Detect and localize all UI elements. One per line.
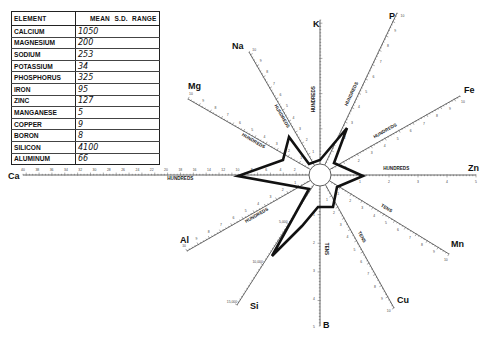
axis-label-al: Al — [180, 235, 189, 245]
element-name: BORON — [12, 130, 76, 142]
tick-label: 3 — [417, 180, 419, 184]
tick-label: 4 — [358, 105, 360, 109]
tick-label: 8 — [208, 230, 210, 234]
tick-label: 7 — [367, 272, 369, 276]
axis-label-cu: Cu — [397, 295, 409, 305]
tick-label: 6 — [232, 216, 234, 220]
unit-label: HUNDREDS — [373, 122, 398, 139]
tick-label: 6 — [265, 168, 267, 172]
tick-label: 7 — [409, 236, 411, 240]
tick-label: 4 — [347, 235, 349, 239]
element-table: ELEMENT MEAN S.D. RANGE CALCIUM1050MAGNE… — [11, 11, 160, 165]
tick-label: 38 — [35, 168, 39, 172]
unit-label: TENS — [324, 243, 329, 255]
mean-value: 34 — [76, 60, 113, 72]
tick-label: 9 — [381, 297, 383, 301]
table-row: SODIUM253 — [12, 49, 160, 61]
range-value — [130, 83, 159, 95]
sd-value — [112, 83, 130, 95]
tick-label: 10,000 — [252, 260, 262, 264]
table-row: ZINC127 — [12, 95, 160, 107]
tick-label: 22 — [150, 168, 154, 172]
range-value — [130, 26, 159, 38]
tick-label: 7 — [220, 223, 222, 227]
tick-label: 4 — [446, 180, 448, 184]
tick-label: 6 — [239, 121, 241, 125]
mean-value: 127 — [76, 95, 113, 107]
tick-label: 2 — [333, 211, 335, 215]
tick-label: 9 — [202, 99, 204, 103]
unit-label: HUNDREDS — [273, 104, 290, 129]
header-mean: MEAN — [76, 12, 113, 26]
unit-label: HUNDREDS — [241, 132, 266, 149]
tick-label: 1 — [326, 198, 328, 202]
tick-label: 9 — [449, 107, 451, 111]
tick-label: 10 — [387, 309, 391, 313]
tick-label: 5 — [353, 248, 355, 252]
tick-label: 6 — [410, 129, 412, 133]
range-value — [130, 107, 159, 119]
axis-label-zn: Zn — [468, 163, 479, 173]
sd-value — [112, 37, 130, 49]
axis-label-fe: Fe — [464, 85, 475, 95]
table-row: IRON95 — [12, 83, 160, 95]
tick-label: 2 — [306, 138, 308, 142]
unit-label: HUNDREDS — [383, 166, 409, 171]
tick-label: 3 — [276, 142, 278, 146]
element-name: SILICON — [12, 141, 76, 153]
tick-label: 10 — [401, 14, 405, 18]
range-value — [130, 130, 159, 142]
tick-label: 3 — [313, 269, 315, 273]
mean-value: 4100 — [76, 141, 113, 153]
unit-label: HUNDREDS — [167, 176, 193, 181]
tick-label: 36 — [50, 168, 54, 172]
tick-label: 5 — [475, 180, 477, 184]
table-row: CALCIUM1050 — [12, 26, 160, 38]
range-value — [130, 49, 159, 61]
tick-label: 9 — [195, 237, 197, 241]
tick-label: 40 — [21, 168, 25, 172]
tick-label: 3 — [269, 195, 271, 199]
tick-label: 10 — [461, 100, 465, 104]
axis-label-mn: Mn — [451, 239, 464, 249]
tick-label: 14 — [207, 168, 211, 172]
range-value — [130, 60, 159, 72]
mean-value: 200 — [76, 37, 113, 49]
tick-label: 16 — [193, 168, 197, 172]
sd-value — [112, 107, 130, 119]
sd-value — [112, 141, 130, 153]
sd-value — [112, 72, 130, 84]
tick-label: 10 — [189, 92, 193, 96]
axis-label-k: K — [313, 19, 320, 29]
header-range: RANGE — [130, 12, 159, 26]
header-element: ELEMENT — [12, 12, 76, 26]
tick-label: 2 — [313, 241, 315, 245]
tick-label: 6 — [397, 228, 399, 232]
mean-value: 8 — [76, 130, 113, 142]
tick-label: 5 — [397, 137, 399, 141]
tick-label: 3 — [371, 151, 373, 155]
element-name: ZINC — [12, 95, 76, 107]
header-sd: S.D. — [112, 12, 130, 26]
unit-label: HUNDREDS — [311, 86, 316, 112]
element-name: POTASSIUM — [12, 60, 76, 72]
tick-label: 1 — [359, 180, 361, 184]
tick-label: 8 — [374, 285, 376, 289]
sd-value — [112, 49, 130, 61]
tick-label: 2 — [282, 188, 284, 192]
tick-label: 5 — [286, 104, 288, 108]
table-row: BORON8 — [12, 130, 160, 142]
sd-value — [112, 95, 130, 107]
tick-label: 7 — [423, 122, 425, 126]
tick-label: 28 — [107, 168, 111, 172]
tick-label: 8 — [436, 114, 438, 118]
tick-label: 12 — [221, 168, 225, 172]
axis-line-na — [249, 52, 315, 165]
table-row: MAGNESIUM200 — [12, 37, 160, 49]
tick-label: 4 — [384, 144, 386, 148]
tick-label: 9 — [260, 59, 262, 63]
sd-value — [112, 118, 130, 130]
tick-label: 1 — [337, 192, 339, 196]
tick-label: 5 — [245, 209, 247, 213]
tick-label: 3 — [361, 206, 363, 210]
